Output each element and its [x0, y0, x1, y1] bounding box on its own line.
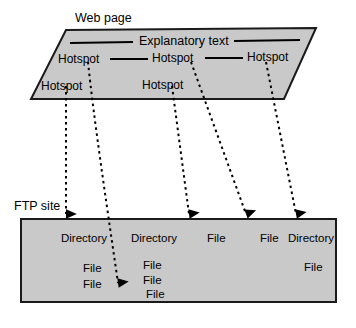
- diagram-canvas: Web page Explanatory text Hotspot Hotspo…: [0, 0, 356, 328]
- hotspot-upper-right[interactable]: Hotspot: [247, 51, 288, 63]
- ftp-entry-directory-3[interactable]: Directory: [288, 233, 334, 245]
- connector-hotspot-3: [172, 86, 189, 214]
- ftp-entry-file-1a[interactable]: File: [83, 263, 102, 275]
- hotspot-upper-middle[interactable]: Hotspot: [152, 52, 193, 64]
- diagram-shapes-layer: [0, 0, 356, 328]
- ftp-entry-file-3[interactable]: File: [207, 233, 226, 245]
- hotspot-lower-left[interactable]: Hotspot: [41, 80, 82, 92]
- ftp-entry-directory-2[interactable]: Directory: [131, 233, 177, 245]
- ftp-entry-file-2a[interactable]: File: [143, 260, 162, 272]
- web-page-title: Web page: [75, 12, 132, 25]
- hotspot-lower-middle[interactable]: Hotspot: [142, 79, 183, 91]
- ftp-site-title: FTP site: [14, 200, 60, 213]
- hotspot-upper-left[interactable]: Hotspot: [58, 53, 99, 65]
- ftp-entry-directory-1[interactable]: Directory: [61, 233, 107, 245]
- explanatory-text-label: Explanatory text: [139, 35, 229, 48]
- ftp-entry-file-4[interactable]: File: [260, 233, 279, 245]
- explanatory-rule-right: [234, 40, 300, 41]
- ftp-entry-file-2c[interactable]: File: [146, 289, 165, 301]
- ftp-entry-file-5[interactable]: File: [304, 262, 323, 274]
- explanatory-rule-left: [70, 42, 133, 43]
- ftp-entry-file-2b[interactable]: File: [143, 275, 162, 287]
- ftp-entry-file-1b[interactable]: File: [83, 279, 102, 291]
